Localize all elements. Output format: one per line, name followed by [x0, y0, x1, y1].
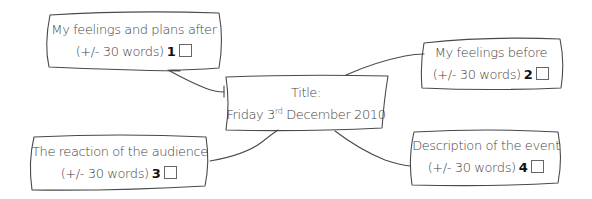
node-feelings-after: My feelings and plans after (+/- 30 word… — [48, 15, 220, 69]
node-feelings-before: My feelings before (+/- 30 words)2 — [422, 40, 560, 90]
date-rest: December 2010 — [282, 107, 385, 122]
word-count: (+/- 30 words) — [76, 44, 164, 59]
node-number: 4 — [519, 160, 528, 175]
node-number: 2 — [524, 67, 533, 82]
node-meta: (+/- 30 words)1 — [48, 41, 220, 63]
node-event-description: Description of the event (+/- 30 words)4 — [412, 132, 560, 184]
node-meta: (+/- 30 words)3 — [32, 163, 206, 185]
node-number: 1 — [167, 44, 176, 59]
connector-2 — [346, 54, 424, 75]
title-label: Title: — [226, 82, 386, 104]
word-count: (+/- 30 words) — [428, 160, 516, 175]
node-meta: (+/- 30 words)2 — [422, 64, 560, 86]
word-count: (+/- 30 words) — [433, 67, 521, 82]
node-title: The reaction of the audience — [32, 141, 206, 163]
date-prefix: Friday 3 — [226, 107, 275, 122]
node-meta: (+/- 30 words)4 — [412, 157, 560, 179]
node-audience-reaction: The reaction of the audience (+/- 30 wor… — [32, 138, 206, 190]
node-number: 3 — [152, 166, 161, 181]
connector-3 — [210, 130, 278, 161]
checkbox[interactable] — [164, 166, 177, 179]
title-date: Friday 3rd December 2010 — [226, 104, 386, 126]
node-title: My feelings and plans after — [48, 19, 220, 41]
checkbox[interactable] — [536, 67, 549, 80]
node-title: Description of the event — [412, 135, 560, 157]
word-count: (+/- 30 words) — [61, 166, 149, 181]
checkbox[interactable] — [531, 160, 544, 173]
center-title-node: Title: Friday 3rd December 2010 — [226, 78, 386, 130]
checkbox[interactable] — [179, 44, 192, 57]
connector-1 — [168, 70, 224, 92]
connector-4 — [335, 131, 410, 166]
node-title: My feelings before — [422, 42, 560, 64]
